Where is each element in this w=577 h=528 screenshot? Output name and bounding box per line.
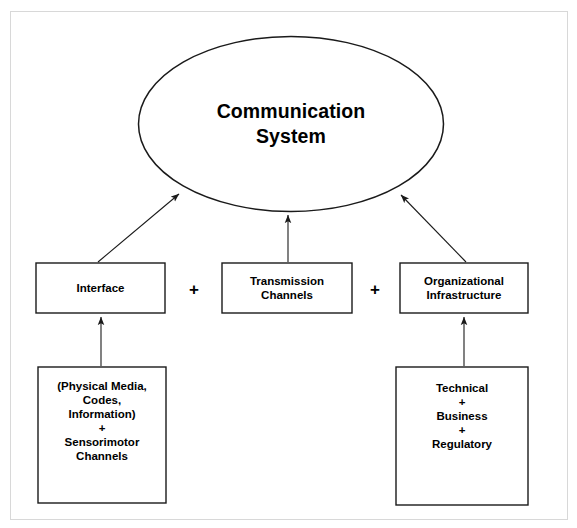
organizational-detail-line-2: + <box>459 396 466 408</box>
organizational-detail-line-4: + <box>459 424 466 436</box>
communication-system-label: Communication System <box>138 36 444 212</box>
interface-label-text: Interface <box>77 281 125 295</box>
organizational-infrastructure-label: Organizational Infrastructure <box>400 263 528 313</box>
transmission-line-2: Channels <box>261 289 313 301</box>
organizational-line-1: Organizational <box>424 275 504 287</box>
interface-detail-line-2: Codes, <box>83 394 121 406</box>
interface-label: Interface <box>36 263 165 313</box>
communication-system-line-2: System <box>256 125 326 147</box>
interface-detail-label: (Physical Media, Codes, Information) + S… <box>38 367 166 503</box>
interface-detail-line-3: Information) <box>68 408 135 420</box>
plus-operator-right: + <box>365 281 385 298</box>
organizational-line-2: Infrastructure <box>427 289 502 301</box>
interface-detail-line-6: Channels <box>76 450 128 462</box>
interface-detail-line-1: (Physical Media, <box>57 380 146 392</box>
organizational-detail-line-3: Business <box>436 410 487 422</box>
diagram-page: Communication System Interface Transmiss… <box>0 0 577 528</box>
organizational-detail-line-5: Regulatory <box>432 438 492 450</box>
transmission-channels-label: Transmission Channels <box>222 263 352 313</box>
organizational-detail-line-1: Technical <box>436 382 488 394</box>
communication-system-line-1: Communication <box>217 100 366 122</box>
interface-detail-line-4: + <box>99 422 106 434</box>
organizational-detail-label: Technical + Business + Regulatory <box>396 367 528 505</box>
transmission-line-1: Transmission <box>250 275 324 287</box>
plus-operator-left: + <box>184 281 204 298</box>
interface-detail-line-5: Sensorimotor <box>65 436 140 448</box>
